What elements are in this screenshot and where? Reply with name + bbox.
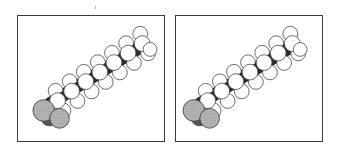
stereo-panel-right (175, 15, 323, 142)
stereo-panel-left (17, 15, 165, 142)
molecule-model-left (18, 16, 164, 141)
molecule-model-right (176, 16, 322, 141)
stray-mark (95, 6, 96, 9)
